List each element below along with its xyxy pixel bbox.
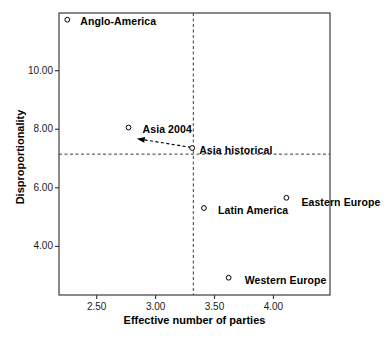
x-axis-title: Effective number of parties: [59, 314, 330, 326]
data-point-marker: [284, 195, 289, 200]
scatter-chart-figure: 2.503.003.504.004.006.008.0010.00Anglo-A…: [0, 0, 391, 343]
y-axis-title: Disproportionality: [14, 110, 26, 205]
data-point-marker: [190, 146, 195, 151]
plot-area: [0, 0, 391, 343]
data-point-marker: [226, 275, 231, 280]
data-point-marker: [65, 17, 70, 22]
shift-arrow-head: [137, 137, 145, 143]
data-point-marker: [126, 125, 131, 130]
shift-arrow-shaft: [143, 140, 191, 148]
data-point-marker: [202, 206, 207, 211]
